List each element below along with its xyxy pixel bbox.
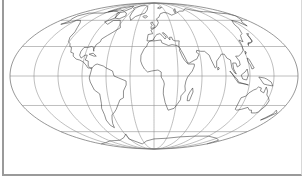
landmass-japan [247,34,253,46]
landmass-sri-lanka [218,67,220,70]
landmass-philippines [247,58,254,69]
landmass-north-america [61,11,121,68]
landmass-taiwan [245,51,246,54]
landmass-madagascar [187,88,193,101]
landmass-cuba [89,53,96,56]
landmass-africa [141,40,195,110]
landmass-svalbard [158,7,162,9]
world-map[interactable] [0,0,304,183]
coastlines [61,5,277,143]
landmass-novaya-zemlya [174,9,176,13]
landmass-antarctica [101,134,218,144]
landmass-australia [235,87,269,113]
landmass-borneo [241,69,248,80]
landmass-indonesia [230,71,249,85]
landmass-british-isles [151,22,155,29]
landmass-new-guinea [259,77,273,86]
landmass-new-zealand [260,110,276,120]
landmass-iceland [143,16,148,18]
landmass-europe-asia [147,9,247,74]
